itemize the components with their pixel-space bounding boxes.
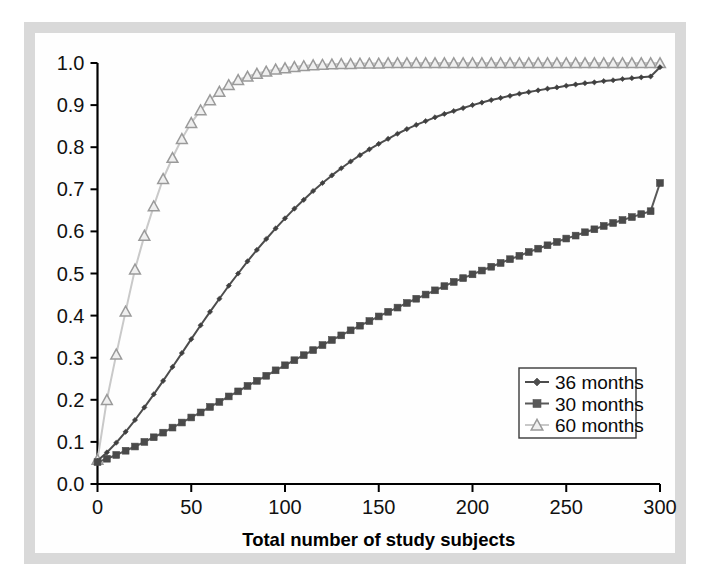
data-point-marker — [517, 91, 522, 96]
data-point-marker — [554, 85, 559, 90]
data-point-marker — [225, 393, 232, 400]
data-point-marker — [647, 208, 654, 215]
data-point-marker — [611, 78, 616, 83]
data-point-marker — [403, 300, 410, 307]
data-point-marker — [516, 252, 523, 259]
data-point-marker — [366, 318, 373, 325]
y-axis-tick-label: 0.9 — [57, 94, 85, 116]
data-point-marker — [460, 275, 467, 282]
data-point-marker — [573, 82, 578, 87]
x-axis-tick-label: 0 — [92, 496, 103, 518]
data-point-marker — [564, 83, 569, 88]
data-point-marker — [461, 105, 466, 110]
data-point-marker — [347, 327, 354, 334]
axes-layer: 0.00.10.20.30.40.50.60.70.80.91.00501001… — [57, 52, 677, 518]
y-axis-tick-label: 0.2 — [57, 389, 85, 411]
data-point-marker — [469, 271, 476, 278]
legend-item-label: 60 months — [555, 415, 644, 436]
legend-item-label: 30 months — [555, 394, 644, 415]
data-point-marker — [158, 174, 169, 184]
x-axis-title: Total number of study subjects — [242, 529, 515, 550]
x-axis-tick-label: 150 — [362, 496, 395, 518]
data-point-marker — [432, 115, 437, 120]
data-point-marker — [132, 443, 139, 450]
x-axis-tick-label: 250 — [550, 496, 583, 518]
data-point-marker — [545, 86, 550, 91]
data-point-marker — [141, 439, 148, 446]
data-point-marker — [122, 447, 129, 454]
data-point-marker — [413, 295, 420, 302]
y-axis-tick-label: 0.8 — [57, 136, 85, 158]
data-point-marker — [619, 217, 626, 224]
data-point-marker — [498, 95, 503, 100]
data-point-marker — [422, 291, 429, 298]
x-axis-tick-label: 200 — [456, 496, 489, 518]
data-point-marker — [423, 118, 428, 123]
data-point-marker — [544, 242, 551, 249]
data-point-marker — [533, 400, 541, 408]
data-point-marker — [235, 388, 242, 395]
data-point-marker — [639, 75, 644, 80]
data-point-marker — [169, 424, 176, 431]
data-point-marker — [553, 239, 560, 246]
data-point-marker — [601, 79, 606, 84]
data-point-marker — [338, 332, 345, 339]
data-point-marker — [244, 383, 251, 390]
x-axis-label-text: Total number of study subjects — [242, 529, 515, 550]
data-point-marker — [385, 308, 392, 315]
data-point-marker — [197, 409, 204, 416]
data-point-marker — [479, 100, 484, 105]
chart-legend: 36 months30 months60 months — [519, 368, 644, 438]
data-point-marker — [207, 404, 214, 411]
data-point-marker — [470, 103, 475, 108]
data-point-marker — [148, 201, 159, 211]
data-point-marker — [94, 459, 101, 466]
data-point-marker — [150, 434, 157, 441]
y-axis-tick-label: 0.3 — [57, 347, 85, 369]
data-point-marker — [582, 229, 589, 236]
data-point-marker — [535, 245, 542, 252]
y-axis-tick-label: 0.6 — [57, 220, 85, 242]
data-point-marker — [375, 313, 382, 320]
data-point-marker — [310, 347, 317, 354]
data-point-marker — [357, 322, 364, 329]
data-point-marker — [253, 377, 260, 384]
data-point-marker — [450, 279, 457, 286]
data-point-marker — [178, 419, 185, 426]
data-point-marker — [167, 153, 178, 163]
x-axis-tick-label: 300 — [643, 496, 676, 518]
data-point-marker — [591, 226, 598, 233]
y-axis-tick-label: 0.0 — [57, 473, 85, 495]
data-point-marker — [536, 88, 541, 93]
data-point-marker — [582, 81, 587, 86]
data-point-marker — [328, 337, 335, 344]
y-axis-tick-label: 1.0 — [57, 52, 85, 74]
data-point-marker — [111, 349, 122, 359]
data-point-marker — [103, 455, 110, 462]
data-point-marker — [592, 80, 597, 85]
data-point-marker — [451, 108, 456, 113]
x-axis-tick-label: 50 — [180, 496, 202, 518]
data-point-marker — [282, 362, 289, 369]
data-point-marker — [216, 399, 223, 406]
legend-item-label: 36 months — [555, 372, 644, 393]
data-point-marker — [291, 357, 298, 364]
data-point-marker — [526, 89, 531, 94]
data-point-marker — [489, 97, 494, 102]
data-point-marker — [628, 214, 635, 221]
data-point-marker — [139, 230, 150, 240]
data-point-marker — [610, 220, 617, 227]
y-axis-tick-label: 0.1 — [57, 431, 85, 453]
data-point-marker — [563, 235, 570, 242]
data-point-marker — [160, 429, 167, 436]
data-point-marker — [572, 232, 579, 239]
data-point-marker — [130, 264, 141, 274]
y-axis-tick-label: 0.4 — [57, 305, 85, 327]
y-axis-tick-label: 0.5 — [57, 263, 85, 285]
data-point-marker — [507, 256, 514, 263]
data-point-marker — [442, 111, 447, 116]
data-point-marker — [620, 76, 625, 81]
x-axis-tick-label: 100 — [268, 496, 301, 518]
data-point-marker — [497, 260, 504, 267]
y-axis-tick-label: 0.7 — [57, 178, 85, 200]
